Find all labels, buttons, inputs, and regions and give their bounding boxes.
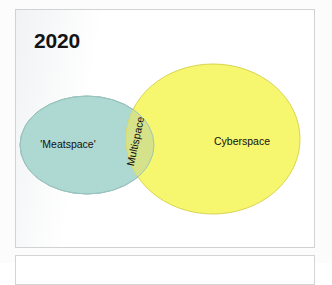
page-title: 2020 bbox=[34, 30, 80, 51]
set-cyberspace-label: Cyberspace bbox=[214, 135, 270, 147]
set-meatspace-label: 'Meatspace' bbox=[40, 138, 95, 150]
